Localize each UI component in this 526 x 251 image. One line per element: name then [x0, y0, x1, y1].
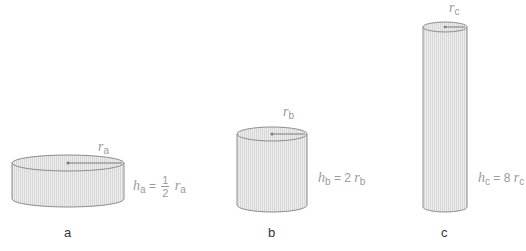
fraction-one-half: 12: [161, 174, 169, 199]
radius-label-c: rc: [449, 0, 459, 17]
height-relation-b: hb = 2 rb: [318, 170, 365, 187]
cylinder-c: [423, 22, 467, 212]
caption-a: a: [64, 225, 71, 240]
cylinder-b: [237, 127, 307, 212]
caption-b: b: [268, 225, 275, 240]
radius-label-b: rb: [283, 104, 294, 121]
cylinder-a: [12, 155, 124, 207]
height-relation-c: hc = 8 rc: [478, 170, 524, 187]
caption-c: c: [441, 225, 448, 240]
height-relation-a: ha = 12 ra: [133, 174, 186, 199]
radius-label-a: ra: [98, 139, 109, 156]
cylinders-diagram: [0, 0, 526, 251]
